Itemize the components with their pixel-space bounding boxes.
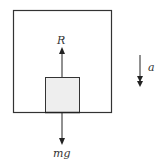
weight-arrow xyxy=(59,113,65,145)
acceleration-arrow xyxy=(137,55,143,87)
normal-reaction-label: R xyxy=(57,35,65,46)
acceleration-label: a xyxy=(148,62,155,73)
diagram-svg xyxy=(0,0,165,163)
diagram-canvas: R mg a xyxy=(0,0,165,163)
weight-label: mg xyxy=(53,148,70,159)
arrowhead-up-icon xyxy=(59,47,65,54)
normal-reaction-arrow xyxy=(59,47,65,77)
arrowhead-down-icon xyxy=(137,81,143,87)
arrowhead-down-icon xyxy=(59,138,65,145)
block xyxy=(46,78,80,113)
